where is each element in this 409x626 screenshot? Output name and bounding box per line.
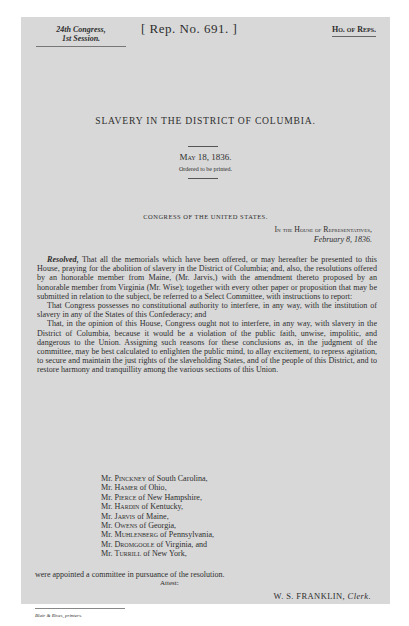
appointed-line: were appointed a committee in pursuance … (35, 570, 225, 579)
congress-session: 24th Congress, 1st Session. (36, 25, 126, 47)
report-number: [ Rep. No. 691. ] (141, 24, 237, 33)
ordered-printed: Ordered to be printed. (21, 166, 390, 172)
member-line: Mr. Muhlenberg of Pennsylvania, (101, 530, 214, 539)
document-title: SLAVERY IN THE DISTRICT OF COLUMBIA. (21, 115, 390, 126)
chamber-label: Ho. of Reps. (332, 25, 376, 37)
member-line: Mr. Pinckney of South Carolina, (101, 474, 214, 483)
resolution-body: Resolved, That all the memorials which h… (37, 255, 377, 375)
congress-line: CONGRESS OF THE UNITED STATES. (21, 213, 390, 220)
resolution-paragraph: That Congress possesses no constitutiona… (37, 301, 377, 319)
divider (188, 146, 218, 147)
session-label: 1st Session. (36, 34, 126, 43)
member-line: Mr. Owens of Georgia, (101, 521, 214, 530)
member-line: Mr. Hamer of Ohio, (101, 483, 214, 492)
resolved-label: Resolved, (47, 255, 79, 264)
house-line: In the House of Representatives, (275, 225, 373, 234)
house-date: February 8, 1836. (314, 235, 372, 244)
document-date: May 18, 1836. (21, 152, 390, 162)
document-page: 24th Congress, 1st Session. [ Rep. No. 6… (21, 17, 390, 604)
member-line: Mr. Pierce of New Hampshire, (101, 493, 214, 502)
attest-label: Attest: (160, 579, 179, 587)
committee-members: Mr. Pinckney of South Carolina, Mr. Hame… (101, 474, 214, 559)
congress-label: 24th Congress, (36, 25, 126, 34)
divider (188, 178, 218, 179)
member-line: Mr. Dromgoole of Virginia, and (101, 540, 214, 549)
resolution-paragraph: That, in the opinion of this House, Cong… (37, 319, 377, 374)
member-line: Mr. Turrill of New York, (101, 549, 214, 558)
member-line: Mr. Jarvis of Maine, (101, 512, 214, 521)
printer-credit: Blair & Rives, printers. (35, 613, 82, 618)
printer-rule (35, 608, 125, 609)
member-line: Mr. Hardin of Kentucky, (101, 502, 214, 511)
resolution-paragraph: Resolved, That all the memorials which h… (37, 255, 377, 301)
header-rule (36, 46, 126, 47)
clerk-signature: W. S. FRANKLIN, Clerk. (273, 591, 371, 601)
